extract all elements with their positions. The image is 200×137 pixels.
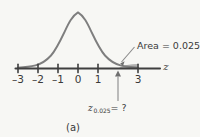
area-leader-line — [122, 47, 135, 62]
axis-tick-label--1: –1 — [52, 73, 64, 85]
figure-canvas: –3 –2 –1 0 1 3 z Area = 0.025 z 0.025 = … — [0, 0, 200, 137]
critical-value-subscript: 0.025 — [94, 107, 111, 114]
critical-value-equals: = ? — [111, 102, 127, 113]
axis-tick-label--2: –2 — [32, 73, 44, 85]
z-axis-label: z — [162, 61, 169, 72]
axis-tick-label-1: 1 — [95, 73, 102, 85]
critical-value-symbol: z — [87, 103, 93, 113]
area-annotation-label: Area = 0.025 — [137, 40, 200, 51]
axis-tick-label--3: –3 — [12, 73, 24, 85]
critical-value-arrow-icon — [115, 71, 121, 77]
critical-value-label: z 0.025 = ? — [87, 102, 127, 114]
normal-curve — [18, 12, 138, 67]
axis-tick-label-0: 0 — [75, 73, 82, 85]
normal-distribution-figure: –3 –2 –1 0 1 3 z Area = 0.025 z 0.025 = … — [0, 0, 200, 137]
figure-caption: (a) — [66, 122, 80, 133]
axis-tick-label-3: 3 — [135, 73, 142, 85]
